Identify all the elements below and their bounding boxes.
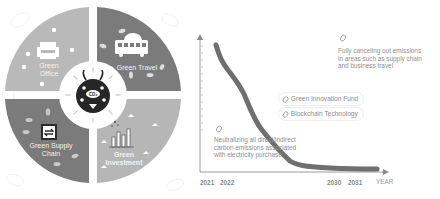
printer-icon [37,42,59,59]
note-neutralizing: Neutralizing all direct/indirect carbon … [214,136,324,159]
pill-label: Green Innovation Fund [291,95,358,102]
label-green-supply-chain: Green Supply Chain [28,142,74,158]
emission-reduction-chart: Fully canceling out emissions in areas s… [180,0,440,199]
note-line: in areas such as supply chain [338,55,438,63]
note-line: Neutralizing all direct/indirect [214,136,324,144]
label-green-investment: Green Investment [104,151,144,167]
year-2022: 2022 [220,179,234,186]
year-2030: 2030 [327,179,341,186]
note-line: with electricity purchase [214,151,324,159]
label-line: Green [36,62,62,70]
leaf-icon [282,96,289,103]
wheel-graphic: CO₂ [0,0,190,199]
green-wheel-diagram: CO₂ [0,0,190,199]
note-line: carbon emissions associated [214,144,324,152]
y-axis-arrow-icon [197,34,203,40]
x-axis-label: YEAR [376,178,393,185]
x-axis-arrow-icon [383,169,389,175]
pill-label: Blockchain Technology [291,110,358,117]
pill-blockchain-technology: Blockchain Technology [278,107,364,121]
svg-text:CO₂: CO₂ [89,92,98,97]
note-fully-canceling: Fully canceling out emissions in areas s… [338,47,438,70]
pill-green-innovation-fund: Green Innovation Fund [278,92,364,106]
year-2021: 2021 [200,179,214,186]
supply-chain-icon [41,124,57,140]
label-line: Green [104,151,144,159]
leaf-icon-bottom [215,125,222,133]
label-line: Office [36,70,62,78]
label-green-office: Green Office [36,62,62,78]
note-line: and business travel [338,62,438,70]
note-line: Fully canceling out emissions [338,47,438,55]
year-2031: 2031 [348,179,362,186]
label-line: Chain [28,150,74,158]
label-line: Green Travel [112,64,162,72]
label-green-travel: Green Travel [112,64,162,72]
leaf-icon-top [339,34,346,42]
label-line: Green Supply [28,142,74,150]
label-line: Investment [104,159,144,167]
leaf-icon [282,111,289,118]
